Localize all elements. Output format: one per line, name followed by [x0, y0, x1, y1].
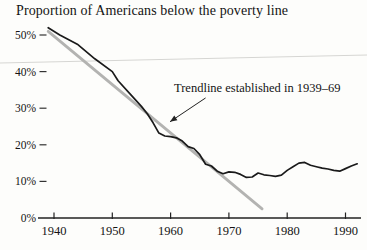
y-tick-label: 20%: [15, 139, 37, 151]
x-tick-label: 1970: [216, 224, 241, 238]
annotation-arrowhead: [170, 116, 177, 122]
y-tick-label: 50%: [15, 29, 37, 41]
y-tick-label: 40%: [15, 66, 37, 78]
y-tick-label: 30%: [15, 102, 37, 114]
y-tick-label: 0%: [21, 212, 37, 224]
poverty-rate: [48, 28, 357, 178]
x-tick-label: 1940: [42, 224, 67, 238]
y-tick-label: 10%: [15, 175, 37, 187]
x-tick-label: 1950: [100, 224, 125, 238]
x-tick-label: 1990: [333, 224, 358, 238]
scan-artifact-line: [0, 55, 367, 63]
x-tick-label: 1960: [158, 224, 183, 238]
x-tick-label: 1980: [275, 224, 300, 238]
plot-area: 0%10%20%30%40%50%19401950196019701980199…: [0, 0, 367, 250]
poverty-line-chart: Proportion of Americans below the povert…: [0, 0, 367, 250]
